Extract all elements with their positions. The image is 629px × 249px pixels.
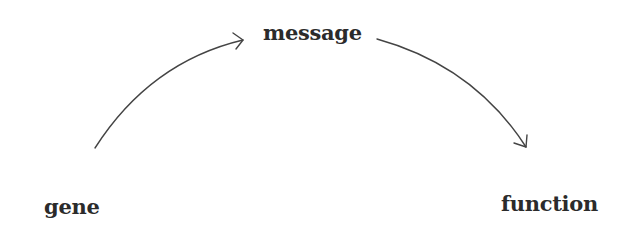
node-message: message xyxy=(263,22,362,43)
node-function: function xyxy=(501,193,598,214)
arrow-gene-to-message xyxy=(95,33,243,148)
arc-gene-to-message xyxy=(95,40,243,148)
node-gene: gene xyxy=(44,196,99,217)
arrow-message-to-function xyxy=(377,39,527,147)
diagram-canvas: message gene function xyxy=(0,0,629,249)
arc-message-to-function xyxy=(377,39,526,147)
